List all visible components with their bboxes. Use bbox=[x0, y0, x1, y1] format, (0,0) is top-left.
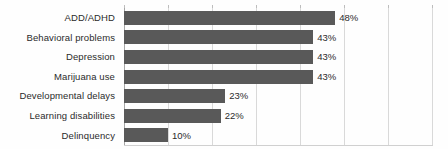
bar-row[interactable]: 43% bbox=[124, 28, 432, 48]
category-label: Delinquency bbox=[62, 131, 115, 141]
category-label-row: Marijuana use bbox=[0, 67, 120, 87]
bar-row[interactable]: 22% bbox=[124, 106, 432, 126]
bar-row[interactable]: 43% bbox=[124, 67, 432, 87]
category-label: Depression bbox=[66, 52, 115, 62]
bar-row[interactable]: 10% bbox=[124, 125, 432, 145]
category-label-row: Delinquency bbox=[0, 125, 120, 145]
bar-value-label: 43% bbox=[317, 72, 336, 82]
category-label: Marijuana use bbox=[54, 72, 115, 82]
bar-chart: ADD/ADHD Behavioral problems Depression … bbox=[0, 0, 448, 149]
bar-row[interactable]: 23% bbox=[124, 86, 432, 106]
bar-value-label: 43% bbox=[317, 52, 336, 62]
bar[interactable] bbox=[124, 11, 335, 25]
bar-series: 48%43%43%43%23%22%10% bbox=[124, 8, 432, 145]
category-label-row: Developmental delays bbox=[0, 86, 120, 106]
axis-tick bbox=[432, 5, 433, 8]
bar-value-label: 48% bbox=[339, 13, 358, 23]
bar[interactable] bbox=[124, 30, 313, 44]
bar-value-label: 43% bbox=[317, 33, 336, 43]
value-axis-line bbox=[124, 145, 433, 146]
category-label-row: Behavioral problems bbox=[0, 28, 120, 48]
bar-value-label: 23% bbox=[229, 91, 248, 101]
category-axis-labels: ADD/ADHD Behavioral problems Depression … bbox=[0, 8, 120, 145]
plot-area: 48%43%43%43%23%22%10% bbox=[124, 8, 432, 145]
bar-row[interactable]: 43% bbox=[124, 47, 432, 67]
bar-row[interactable]: 48% bbox=[124, 8, 432, 28]
bar[interactable] bbox=[124, 128, 168, 142]
gridline bbox=[432, 8, 433, 145]
category-label-row: Depression bbox=[0, 47, 120, 67]
category-label: Learning disabilities bbox=[29, 111, 115, 121]
bar-value-label: 10% bbox=[172, 131, 191, 141]
category-label-row: ADD/ADHD bbox=[0, 8, 120, 28]
bar-value-label: 22% bbox=[225, 111, 244, 121]
bar[interactable] bbox=[124, 89, 225, 103]
category-label-row: Learning disabilities bbox=[0, 106, 120, 126]
category-label: ADD/ADHD bbox=[65, 13, 115, 23]
bar[interactable] bbox=[124, 109, 221, 123]
bar[interactable] bbox=[124, 50, 313, 64]
bar[interactable] bbox=[124, 70, 313, 84]
category-label: Behavioral problems bbox=[27, 33, 116, 43]
category-label: Developmental delays bbox=[20, 91, 115, 101]
